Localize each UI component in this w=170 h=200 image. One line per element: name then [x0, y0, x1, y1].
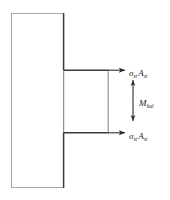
sigma-subscript-top: st — [133, 73, 137, 79]
area-symbol-top: A — [138, 68, 144, 78]
area-subscript-top: st — [144, 73, 148, 79]
moment-subscript: bal — [147, 103, 154, 109]
moment-symbol: M — [139, 98, 147, 108]
diagram-canvas: σstAst Mbal σstAst — [0, 0, 170, 200]
force-label-top: σstAst — [129, 63, 147, 79]
area-subscript-bottom: st — [144, 136, 148, 142]
area-symbol-bottom: A — [138, 131, 144, 141]
moment-label: Mbal — [139, 93, 154, 109]
force-arrows — [108, 70, 125, 133]
sigma-subscript-bottom: st — [133, 136, 137, 142]
vertical-member-outline — [11, 13, 64, 188]
flange-block-outline — [64, 70, 109, 133]
force-label-bottom: σstAst — [129, 126, 147, 142]
